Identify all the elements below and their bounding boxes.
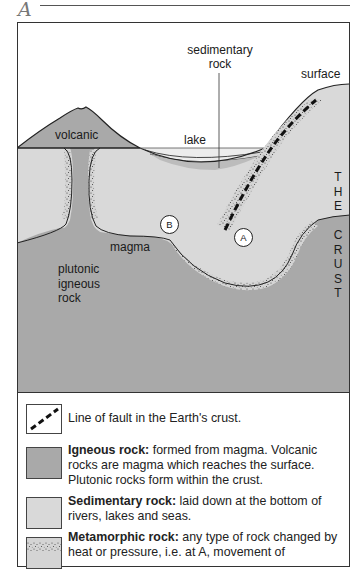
metamorphic-stipple-icon [27,542,61,552]
crust-letter: H [332,185,344,200]
marker-a: A [234,228,253,247]
label-lake: lake [184,133,206,147]
crust-letter: E [332,199,344,214]
label-plutonic-line1: plutonic [58,262,100,277]
legend-term: Igneous rock: [68,443,149,457]
label-sedimentary-rock: sedimentary rock [185,43,255,71]
legend-text-igneous: Igneous rock: formed from magma. Volcani… [68,443,350,488]
crust-letter: T [332,170,344,185]
legend-term: Sedimentary rock: [68,494,176,508]
marker-b: B [160,215,179,234]
legend-description: Line of fault in the Earth's crust. [68,411,241,425]
crust-letter: R [332,243,344,258]
crust-letter: T [332,286,344,301]
label-sedimentary-line2: rock [185,57,255,71]
fault-dash-icon [27,405,61,433]
legend-divider [17,392,350,393]
label-the-crust-vertical: T H E C R U S T [332,170,344,301]
label-sedimentary-line1: sedimentary [185,43,255,57]
label-plutonic-line2: igneous [58,277,100,292]
label-volcanic: volcanic [55,128,98,142]
label-plutonic-igneous-rock: plutonic igneous rock [58,262,100,306]
sedimentary-swatch [26,497,62,529]
legend-text-fault: Line of fault in the Earth's crust. [68,411,350,426]
crust-letter: C [332,228,344,243]
legend-term: Metamorphic rock: [68,530,179,544]
crust-letter-gap [332,214,344,229]
label-plutonic-line3: rock [58,291,100,306]
igneous-swatch [26,447,62,479]
crust-letter: S [332,272,344,287]
label-magma: magma [110,240,150,254]
label-surface: surface [301,67,340,81]
legend-text-metamorphic: Metamorphic rock: any type of rock chang… [68,530,350,560]
fault-line-swatch [26,404,62,434]
crust-letter: U [332,257,344,272]
metamorphic-swatch [26,537,62,569]
legend-text-sedimentary: Sedimentary rock: laid down at the botto… [68,494,350,524]
